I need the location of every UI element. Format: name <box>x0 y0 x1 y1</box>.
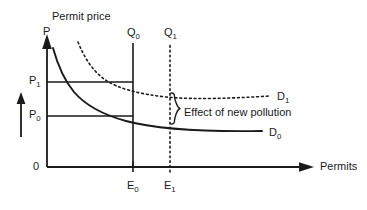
quantity-label-q0-base: Q <box>127 26 136 38</box>
demand-curve-d0 <box>53 48 262 131</box>
quantity-label-q1-sub: 1 <box>173 32 177 41</box>
shift-annotation-label: Effect of new pollution <box>184 107 291 118</box>
price-label-p1-sub: 1 <box>36 80 40 89</box>
price-label-p0-sub: 0 <box>36 114 40 123</box>
price-label-p1: P1 <box>29 75 41 86</box>
quantity-label-q1-base: Q <box>164 26 173 38</box>
curve-label-d1-sub: 1 <box>285 96 289 105</box>
x-axis-title: Permits <box>320 161 357 172</box>
x-axis-arrowhead <box>299 162 314 172</box>
price-increase-arrow-head <box>17 92 26 104</box>
diagram-canvas <box>0 0 367 210</box>
curve-label-d0-sub: 0 <box>277 132 281 141</box>
curve-label-d1-base: D <box>277 90 285 102</box>
quantity-tick-label-e1: E1 <box>164 180 176 191</box>
y-axis-variable: P <box>43 26 50 37</box>
quantity-label-q0-sub: 0 <box>136 32 140 41</box>
origin-label: 0 <box>33 161 39 172</box>
curve-label-d1: D1 <box>277 91 289 102</box>
curve-label-d0-base: D <box>269 126 277 138</box>
quantity-label-q1: Q1 <box>164 27 177 38</box>
quantity-tick-label-e1-sub: 1 <box>171 185 175 194</box>
curve-label-d0: D0 <box>269 127 281 138</box>
quantity-label-q0: Q0 <box>127 27 140 38</box>
price-label-p0: P0 <box>29 109 41 120</box>
permit-market-diagram: Permit price P Permits 0 P1 P0 Q0 Q1 E0 … <box>0 0 367 210</box>
y-axis-title: Permit price <box>52 11 111 22</box>
quantity-tick-label-e0-sub: 0 <box>134 185 138 194</box>
demand-curve-d1 <box>78 42 270 99</box>
quantity-tick-label-e0: E0 <box>127 180 139 191</box>
